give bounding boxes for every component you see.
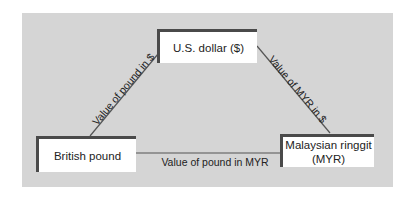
node-british-pound: British pound (36, 136, 136, 172)
node-us-dollar: U.S. dollar ($) (157, 29, 257, 63)
node-malaysian-ringgit: Malaysian ringgit (MYR) (280, 134, 374, 167)
edge-label-pound-in-myr: Value of pound in MYR (150, 156, 280, 168)
node-label-line1: Malaysian ringgit (285, 138, 371, 152)
node-label-line2: (MYR) (312, 152, 345, 166)
node-label: British pound (54, 149, 121, 163)
node-label: U.S. dollar ($) (173, 41, 244, 55)
